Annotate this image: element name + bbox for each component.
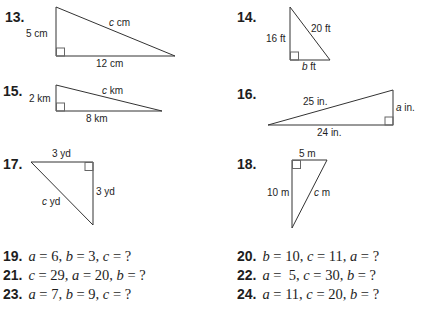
right-angle-mark-16 [385,117,393,125]
label-16-horizontal: 24 in. [317,128,341,138]
value: = 5, [270,267,304,283]
problem-number-14: 14. [237,10,256,24]
problem-number-16: 16. [237,87,256,101]
value: = 6, [36,248,66,264]
unit: cm [114,17,130,28]
value: = 9, [73,286,103,302]
label-14-hypotenuse: 20 ft [311,24,330,34]
label-13-horizontal: 12 cm [96,59,123,69]
value: = 20, [313,286,350,302]
equation-21: 21.c = 29, a = 20, b = ? [3,268,146,283]
value: = ? [357,286,379,302]
label-15-horizontal: 8 km [86,114,108,124]
equation-24: 24.a = 11, c = 20, b = ? [237,287,379,302]
var: a [262,286,269,302]
label-17-vertical: 3 yd [96,187,115,197]
equation-23: 23.a = 7, b = 9, c = ? [3,287,131,302]
value: = 30, [310,267,347,283]
right-angle-mark-15 [57,103,65,111]
value: = 29, [35,267,72,283]
value: = ? [109,286,131,302]
triangle-17 [31,162,93,225]
right-angle-mark-13 [57,48,65,56]
label-14-vertical: 16 ft [266,34,285,44]
label-13-hypotenuse: c cm [109,18,130,28]
label-16-vertical: a in. [396,103,415,113]
label-13-vertical: 5 cm [26,29,48,39]
right-angle-mark-17 [85,163,93,171]
label-14-horizontal: b ft [302,62,316,72]
label-15-vertical: 2 km [29,94,51,104]
var: b [262,248,269,264]
label-16-hypotenuse: 25 in. [303,97,327,107]
problem-number-24: 24. [237,286,256,302]
right-angle-mark-14 [291,52,299,60]
value: = 7, [36,286,66,302]
label-15-hypotenuse: c km [102,86,123,96]
var: a [28,248,35,264]
problem-number-19: 19. [3,248,22,264]
triangle-13 [56,7,175,56]
right-angle-mark-18 [293,161,301,169]
unit: km [107,85,123,96]
label-18-horizontal: 5 m [299,149,316,159]
unit: ft [308,61,316,72]
unit: yd [47,196,60,207]
value: = 11, [313,248,350,264]
var: a [28,286,35,302]
equation-20: 20.b = 10, c = 11, a = ? [237,249,379,264]
label-18-vertical: 10 m [267,188,289,198]
value: = ? [357,248,379,264]
problem-number-23: 23. [3,286,22,302]
value: = ? [109,248,131,264]
var: b [66,286,73,302]
value: = 11, [270,286,307,302]
value: = ? [354,267,376,283]
label-17-hypotenuse: c yd [42,197,60,207]
var: b [117,267,124,283]
value: = 20, [79,267,116,283]
problem-number-20: 20. [237,248,256,264]
var: a [262,267,269,283]
unit: m [319,187,330,198]
problem-number-13: 13. [5,10,24,24]
problem-number-17: 17. [3,157,22,171]
label-17-horizontal: 3 yd [52,149,71,159]
value: = 10, [270,248,307,264]
value: = 3, [73,248,103,264]
problem-number-18: 18. [237,157,256,171]
equation-22: 22.a = 5, c = 30, b = ? [237,268,376,283]
problem-number-22: 22. [237,267,256,283]
equation-19: 19.a = 6, b = 3, c = ? [3,249,131,264]
unit: in. [402,102,415,113]
triangle-16 [268,90,393,125]
var: b [66,248,73,264]
value: = ? [124,267,146,283]
problem-number-21: 21. [3,267,22,283]
problem-number-15: 15. [3,84,22,98]
label-18-hypotenuse: c m [314,188,330,198]
